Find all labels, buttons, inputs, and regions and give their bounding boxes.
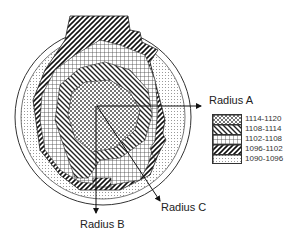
legend-item: 1096-1102: [212, 144, 283, 154]
swatch-grid-icon: [212, 134, 242, 144]
legend-label: 1114-1120: [245, 114, 281, 124]
radius-c-label: Radius C: [161, 201, 206, 213]
legend-label: 1102-1108: [245, 134, 282, 144]
legend-label: 1090-1096: [245, 154, 283, 164]
legend-item: 1114-1120: [212, 114, 283, 124]
legend-item: 1090-1096: [212, 154, 283, 164]
swatch-checker-icon: [212, 114, 242, 124]
legend-label: 1108-1114: [245, 124, 281, 134]
legend-label: 1096-1102: [245, 144, 283, 154]
swatch-dots-icon: [212, 154, 242, 164]
legend: 1114-1120 1108-1114 1102-1108 1096-1102 …: [212, 114, 283, 164]
swatch-diag-forward-icon: [212, 144, 242, 154]
radius-b-label: Radius B: [80, 218, 125, 230]
legend-item: 1108-1114: [212, 124, 283, 134]
legend-item: 1102-1108: [212, 134, 283, 144]
radius-a-label: Radius A: [209, 94, 253, 106]
swatch-diag-back-icon: [212, 124, 242, 134]
